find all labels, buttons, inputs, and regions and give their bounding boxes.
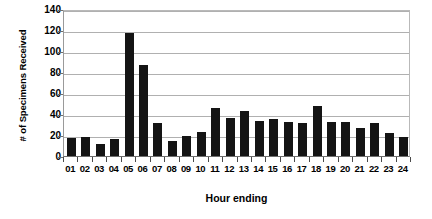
x-tick-mark [92, 157, 93, 162]
bar [370, 123, 379, 156]
bar [110, 139, 119, 156]
bar [255, 121, 264, 156]
x-tick-mark [164, 157, 165, 162]
x-tick-mark [237, 157, 238, 162]
x-tick-mark [352, 157, 353, 162]
x-tick-mark [309, 157, 310, 162]
x-tick-mark [63, 157, 64, 162]
x-tick-label: 24 [396, 163, 410, 174]
x-tick-mark [294, 157, 295, 162]
x-tick-mark [193, 157, 194, 162]
y-tick-label: 100 [27, 47, 61, 57]
x-tick-mark [381, 157, 382, 162]
y-tick-label: 0 [27, 152, 61, 162]
bar [313, 106, 322, 156]
bar [327, 122, 336, 156]
bar [96, 144, 105, 156]
x-tick-label: 01 [63, 163, 77, 174]
y-axis-title: # of Specimens Received [17, 6, 28, 166]
x-tick-label: 06 [135, 163, 149, 174]
x-tick-mark [135, 157, 136, 162]
x-tick-label: 19 [323, 163, 337, 174]
x-tick-label: 16 [280, 163, 294, 174]
x-tick-label: 03 [92, 163, 106, 174]
bar-chart: # of Specimens Received 0204060801001201… [0, 0, 432, 219]
bar [67, 138, 76, 156]
x-tick-label: 22 [367, 163, 381, 174]
x-tick-mark [208, 157, 209, 162]
bar [226, 118, 235, 156]
bar [240, 111, 249, 156]
bar [153, 123, 162, 156]
x-tick-mark [323, 157, 324, 162]
x-tick-label: 05 [121, 163, 135, 174]
bar [284, 122, 293, 156]
x-tick-mark [106, 157, 107, 162]
x-tick-mark [367, 157, 368, 162]
bars-layer [64, 11, 409, 156]
x-tick-label: 17 [294, 163, 308, 174]
y-tick-label: 80 [27, 68, 61, 78]
y-tick-label: 20 [27, 131, 61, 141]
bar [125, 33, 134, 156]
x-tick-mark [77, 157, 78, 162]
y-tick-label: 40 [27, 110, 61, 120]
x-tick-mark [338, 157, 339, 162]
plot-area [63, 10, 410, 157]
x-tick-mark [179, 157, 180, 162]
bar [298, 123, 307, 156]
x-tick-mark [265, 157, 266, 162]
x-tick-label: 18 [309, 163, 323, 174]
x-tick-label: 20 [338, 163, 352, 174]
x-tick-label: 11 [208, 163, 222, 174]
bar [139, 65, 148, 156]
x-tick-mark [410, 157, 411, 162]
x-tick-mark [150, 157, 151, 162]
x-tick-mark [251, 157, 252, 162]
bar [197, 132, 206, 156]
x-tick-mark [280, 157, 281, 162]
y-tick-label: 120 [27, 26, 61, 36]
y-tick-label: 60 [27, 89, 61, 99]
x-tick-label: 15 [265, 163, 279, 174]
x-tick-mark [121, 157, 122, 162]
x-tick-label: 02 [77, 163, 91, 174]
x-tick-mark [396, 157, 397, 162]
x-tick-label: 09 [179, 163, 193, 174]
x-tick-label: 10 [193, 163, 207, 174]
x-tick-label: 08 [164, 163, 178, 174]
bar [385, 133, 394, 156]
bar [269, 119, 278, 156]
x-tick-label: 07 [150, 163, 164, 174]
bar [211, 108, 220, 156]
bar [399, 137, 408, 156]
bar [182, 136, 191, 156]
bar [168, 141, 177, 156]
x-tick-label: 04 [106, 163, 120, 174]
bar [356, 128, 365, 156]
x-tick-label: 23 [381, 163, 395, 174]
x-axis-title: Hour ending [63, 192, 410, 204]
x-tick-label: 12 [222, 163, 236, 174]
bar [341, 122, 350, 156]
x-tick-label: 13 [237, 163, 251, 174]
x-tick-mark [222, 157, 223, 162]
x-tick-label: 14 [251, 163, 265, 174]
y-tick-label: 140 [27, 5, 61, 15]
x-tick-label: 21 [352, 163, 366, 174]
bar [81, 137, 90, 156]
